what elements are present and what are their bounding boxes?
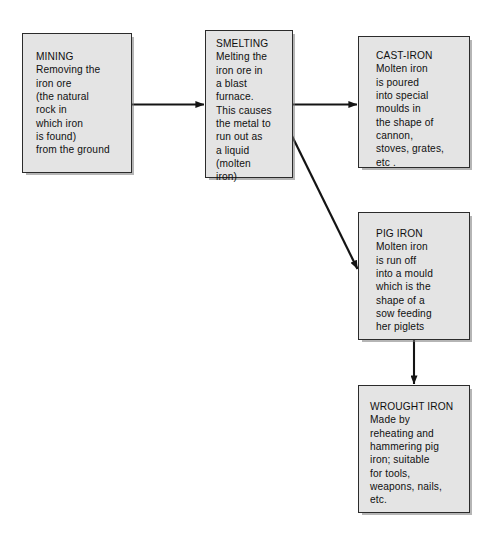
node-mining[interactable]: MINING Removing the iron ore (the natura… bbox=[22, 33, 132, 173]
node-smelting[interactable]: SMELTING Melting the iron ore in a blast… bbox=[205, 30, 293, 178]
node-wrought-iron-text: WROUGHT IRON Made by reheating and hamme… bbox=[370, 400, 453, 507]
node-smelting-text: SMELTING Melting the iron ore in a blast… bbox=[216, 37, 272, 184]
node-mining-text: MINING Removing the iron ore (the natura… bbox=[36, 50, 110, 157]
node-cast-iron-text: CAST-IRON Molten iron is poured into spe… bbox=[376, 49, 444, 169]
node-cast-iron[interactable]: CAST-IRON Molten iron is poured into spe… bbox=[358, 36, 470, 168]
arrow-smelting-to-pig-iron bbox=[292, 136, 358, 269]
flowchart-canvas: MINING Removing the iron ore (the natura… bbox=[0, 0, 485, 545]
node-wrought-iron[interactable]: WROUGHT IRON Made by reheating and hamme… bbox=[358, 385, 470, 513]
node-pig-iron-text: PIG IRON Molten iron is run off into a m… bbox=[376, 227, 433, 334]
node-pig-iron[interactable]: PIG IRON Molten iron is run off into a m… bbox=[358, 212, 470, 340]
